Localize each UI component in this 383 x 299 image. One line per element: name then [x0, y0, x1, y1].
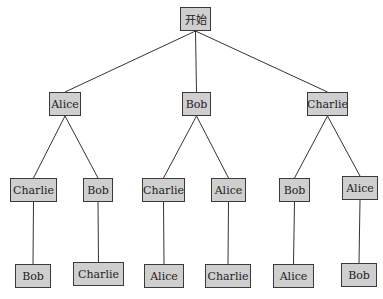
- tree-edge: [294, 202, 295, 264]
- tree-edge: [164, 116, 197, 178]
- node-l3-bob: Bob: [341, 263, 377, 287]
- tree-edge: [196, 31, 328, 92]
- node-l1-alice: Alice: [49, 92, 81, 116]
- tree-edges: [0, 0, 383, 299]
- tree-edge: [164, 202, 165, 264]
- node-l3-charlie: Charlie: [205, 264, 251, 288]
- node-l2-charlie-alice: Alice: [342, 176, 378, 200]
- tree-edge: [34, 116, 66, 178]
- node-l2-charlie-bob: Bob: [279, 178, 310, 202]
- node-root-start: 开始: [180, 7, 211, 31]
- tree-edge: [359, 200, 360, 263]
- node-l3-alice: Alice: [144, 264, 184, 288]
- tree-edge: [228, 202, 229, 264]
- node-l3-bob: Bob: [15, 264, 51, 288]
- tree-edge: [328, 116, 361, 176]
- tree-edge: [65, 31, 196, 92]
- tree-edge: [295, 116, 328, 178]
- node-l1-bob: Bob: [182, 92, 211, 116]
- node-l3-alice: Alice: [273, 264, 314, 288]
- node-l3-charlie: Charlie: [73, 262, 124, 286]
- tree-edge: [65, 116, 98, 178]
- node-l2-alice-bob: Bob: [83, 178, 113, 202]
- node-l1-charlie: Charlie: [307, 92, 348, 116]
- tree-edge: [197, 116, 229, 178]
- node-l2-bob-alice: Alice: [211, 178, 246, 202]
- tree-edge: [196, 31, 197, 92]
- tree-edge: [98, 202, 99, 262]
- node-l2-bob-charlie: Charlie: [142, 178, 185, 202]
- tree-edge: [33, 202, 34, 264]
- node-l2-alice-charlie: Charlie: [10, 178, 57, 202]
